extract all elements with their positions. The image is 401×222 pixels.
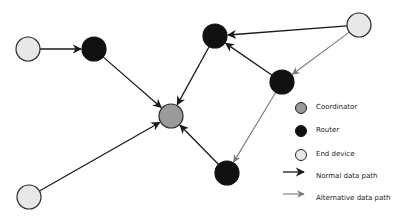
legend-end-device-icon [296, 150, 307, 161]
alternative-path-edge [234, 92, 276, 162]
legend [283, 103, 307, 195]
coordinator-node [159, 104, 183, 128]
legend-alt-path-label: Alternative data path [316, 194, 391, 202]
end-device-node [347, 13, 371, 37]
network-diagram [0, 0, 401, 222]
normal-path-edge [228, 26, 347, 35]
router-node [82, 37, 106, 61]
end-device-node [16, 37, 40, 61]
router-node [270, 70, 294, 94]
end-device-node [17, 185, 41, 209]
legend-end-device-label: End device [316, 150, 355, 158]
legend-normal-path-label: Normal data path [316, 172, 377, 180]
normal-path-edge [180, 125, 218, 164]
normal-path-edge [39, 122, 159, 191]
legend-router-icon [296, 126, 307, 137]
legend-coordinator-label: Coordinator [316, 103, 357, 111]
normal-path-edge [226, 43, 272, 75]
normal-path-edge [103, 57, 161, 108]
legend-coordinator-icon [296, 103, 307, 114]
legend-router-label: Router [316, 126, 339, 134]
normal-path-edge [177, 47, 209, 105]
router-node [215, 161, 239, 185]
router-node [203, 24, 227, 48]
alternative-path-edge [292, 32, 349, 74]
